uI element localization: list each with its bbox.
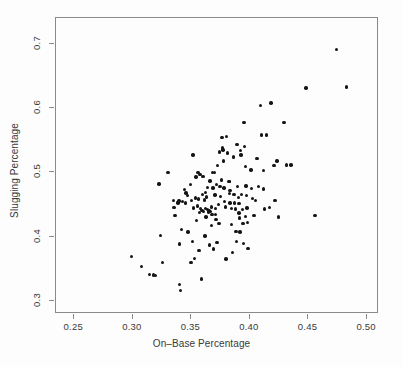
data-point (262, 187, 265, 190)
data-point (201, 175, 204, 178)
data-point (208, 179, 211, 182)
data-point (204, 191, 207, 194)
x-tick-label: 0.35 (181, 321, 200, 332)
data-point (197, 249, 200, 252)
y-tick-label: 0.7 (31, 36, 42, 50)
scatter-plot-figure: 0.250.300.350.400.450.50 0.30.40.50.60.7… (0, 0, 403, 367)
data-point (148, 273, 151, 276)
data-point (234, 207, 237, 210)
data-point (273, 199, 276, 202)
data-point (180, 228, 183, 231)
data-point (157, 182, 160, 185)
x-tick-label: 0.50 (356, 321, 375, 332)
data-point (154, 274, 157, 277)
data-point (254, 199, 257, 202)
data-point (159, 234, 162, 237)
data-point (212, 247, 215, 250)
data-point (230, 207, 233, 210)
data-point (192, 206, 195, 209)
data-point (282, 121, 285, 124)
data-point (237, 211, 240, 214)
data-point (190, 199, 193, 202)
data-point (140, 265, 143, 268)
data-point (232, 155, 235, 158)
x-tick-mark (249, 314, 250, 319)
data-point (277, 215, 280, 218)
data-point (228, 192, 231, 195)
data-point (235, 240, 238, 243)
y-axis-title: Slugging Percentage (9, 96, 20, 246)
data-point (289, 163, 292, 166)
data-point (238, 230, 241, 233)
data-point (242, 242, 245, 245)
data-point (244, 215, 247, 218)
data-point (214, 218, 217, 221)
y-tick-label: 0.3 (31, 293, 42, 307)
data-point (179, 289, 182, 292)
x-tick-label: 0.30 (122, 321, 141, 332)
x-tick-mark (73, 314, 74, 319)
data-point (260, 133, 263, 136)
data-point (215, 241, 218, 244)
data-point (208, 243, 211, 246)
data-point (219, 195, 222, 198)
data-point (272, 164, 275, 167)
data-point (244, 184, 247, 187)
data-point (217, 203, 220, 206)
data-point (189, 183, 192, 186)
data-point (222, 186, 225, 189)
data-point (268, 206, 271, 209)
data-point (178, 283, 181, 286)
data-point (263, 207, 266, 210)
data-point (221, 148, 224, 151)
data-point (232, 193, 235, 196)
x-tick-mark (307, 314, 308, 319)
data-point (228, 189, 231, 192)
data-point (249, 168, 252, 171)
data-point (214, 207, 217, 210)
data-point (161, 261, 164, 264)
data-point (220, 136, 223, 139)
data-point (210, 224, 213, 227)
y-tick-mark (49, 300, 54, 301)
data-point (216, 164, 219, 167)
data-point (245, 206, 248, 209)
y-tick-mark (49, 107, 54, 108)
data-point (204, 215, 207, 218)
data-point (250, 187, 253, 190)
plot-area (55, 17, 378, 313)
x-axis-title: On–Base Percentage (0, 338, 403, 349)
data-point (241, 208, 244, 211)
data-point (345, 85, 348, 88)
data-point (166, 171, 169, 174)
data-point (203, 198, 206, 201)
data-point (214, 213, 217, 216)
data-point (262, 169, 265, 172)
data-point (234, 230, 237, 233)
data-point (245, 194, 248, 197)
data-point (200, 277, 203, 280)
data-point (205, 195, 208, 198)
data-point (178, 242, 181, 245)
x-tick-label: 0.45 (298, 321, 317, 332)
data-point (230, 223, 233, 226)
data-point (220, 178, 223, 181)
data-point (193, 257, 196, 260)
data-point (218, 185, 221, 188)
y-tick-mark (49, 236, 54, 237)
data-point (246, 247, 249, 250)
data-point (243, 145, 246, 148)
y-tick-label: 0.5 (31, 165, 42, 179)
data-point (172, 199, 175, 202)
data-point (242, 121, 245, 124)
data-point (233, 201, 236, 204)
data-point (239, 149, 242, 152)
data-point (211, 186, 214, 189)
data-point (237, 202, 240, 205)
data-point (244, 165, 247, 168)
y-tick-label: 0.6 (31, 100, 42, 114)
data-point (255, 157, 258, 160)
data-point (236, 185, 239, 188)
data-points-layer (56, 18, 377, 312)
x-tick-mark (190, 314, 191, 319)
